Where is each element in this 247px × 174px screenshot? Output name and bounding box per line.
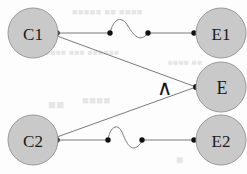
node-e1-label: E1 [212, 25, 231, 44]
edge-c1-e1-squiggle [110, 20, 148, 38]
node-e2-label: E2 [212, 132, 231, 151]
nodes-layer: C1 E1 E C2 E2 [8, 8, 246, 165]
logical-and-wedge-symbol: ∧ [157, 76, 172, 100]
node-c2[interactable]: C2 [8, 115, 58, 165]
bleed-artifact: ■■■■ ■■ [168, 58, 203, 67]
edge-c2-e [57, 87, 196, 137]
node-e2[interactable]: E2 [196, 115, 246, 165]
edge-c2-e2-squiggle [108, 127, 142, 148]
node-c2-label: C2 [23, 132, 43, 151]
edge-dot [107, 30, 112, 35]
node-c1-label: C1 [23, 25, 43, 44]
node-e-label: E [217, 78, 228, 98]
bleed-artifact: ■■■■ [82, 94, 111, 106]
edges-layer [57, 20, 196, 148]
edge-dot [105, 137, 110, 142]
node-c1[interactable]: C1 [8, 8, 58, 58]
node-e[interactable]: E [196, 62, 246, 112]
edge-dot [139, 137, 144, 142]
diagram-canvas: ■■■■■ ■■ ■■■■ ■■■■■ ■■■ ■■■■■■ ■■■■ ■■ ■… [0, 0, 247, 174]
node-e1[interactable]: E1 [196, 8, 246, 58]
bleed-artifact: ■■■■■ ■■ ■■■■ [72, 7, 143, 17]
bleed-artifact: ■■ [48, 97, 65, 112]
causal-diagram-figure: ■■■■■ ■■ ■■■■ ■■■■■ ■■■ ■■■■■■ ■■■■ ■■ ■… [0, 0, 247, 174]
bleed-artifact: ■ [176, 153, 184, 167]
edge-dot [145, 30, 150, 35]
